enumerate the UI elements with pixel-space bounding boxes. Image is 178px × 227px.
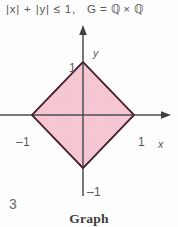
- tick-label-y-negative-one: –1: [87, 186, 101, 198]
- y-axis-label: y: [93, 48, 98, 59]
- formula-line: |x| + |y| ≤ 1,G = ℚ × ℚ: [6, 2, 174, 18]
- set-definition-prefix: G =: [87, 3, 107, 15]
- tick-label-y-positive-one: 1: [69, 62, 76, 74]
- tick-label-x-positive-one: 1: [138, 136, 145, 148]
- x-axis-arrowhead: [161, 111, 171, 119]
- figure-caption: Graph: [0, 211, 178, 227]
- inequality-expression: |x| + |y| ≤ 1,: [6, 3, 76, 15]
- figure-panel: |x| + |y| ≤ 1,G = ℚ × ℚ: [0, 0, 178, 227]
- graph-svg: [0, 18, 178, 200]
- tick-label-x-negative-one: –1: [16, 136, 30, 148]
- y-axis-arrowhead: [79, 25, 87, 35]
- x-axis-label: x: [158, 139, 163, 150]
- rationals-symbol-second: ℚ: [134, 2, 143, 16]
- coordinate-graph: y x 1 –1 1 –1 3: [0, 18, 178, 200]
- figure-number: 3: [9, 196, 17, 212]
- rationals-symbol-first: ℚ: [111, 2, 120, 16]
- cartesian-product-operator: ×: [123, 3, 130, 15]
